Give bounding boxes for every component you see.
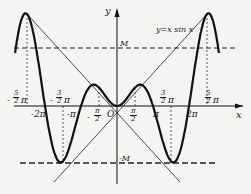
x-axis-arrow-icon xyxy=(235,104,243,109)
x-axis-label: x xyxy=(236,110,242,120)
tick-label-neg-2pi: -2π xyxy=(31,110,46,119)
function-graph-figure: y x M -M y=x sin x O -2π -π π 2π - 52 π … xyxy=(0,0,251,194)
y-axis-label: y xyxy=(105,6,111,16)
line-y-x xyxy=(54,14,207,182)
tick-label-pi: π xyxy=(153,110,159,119)
tick-label-2pi: 2π xyxy=(186,110,198,119)
y-axis-arrow-icon xyxy=(115,8,120,17)
neg-m-label: -M xyxy=(119,155,130,163)
origin-label: O xyxy=(107,110,114,119)
function-label: y=x sin x xyxy=(156,26,193,34)
m-label: M xyxy=(120,40,128,48)
tick-label-neg-pi: -π xyxy=(67,110,76,119)
